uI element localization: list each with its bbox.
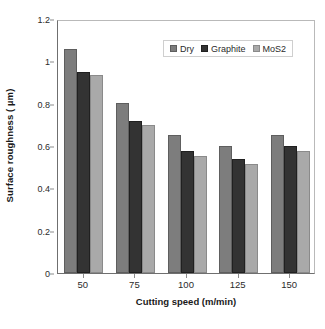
bar	[129, 121, 142, 273]
x-axis-title: Cutting speed (m/min)	[57, 296, 315, 307]
bar	[77, 72, 90, 273]
y-axis-tick-label: 0.4	[37, 184, 50, 194]
x-axis-tick-label: 75	[129, 279, 140, 290]
bar	[194, 156, 207, 273]
bar-group	[64, 21, 103, 273]
x-axis-tick-mark	[83, 274, 84, 278]
legend-entry: Dry	[170, 44, 194, 54]
bar	[181, 151, 194, 273]
legend-swatch-icon	[253, 45, 260, 52]
chart-legend: DryGraphiteMoS2	[163, 40, 293, 57]
bar	[271, 135, 284, 273]
y-axis-tick-mark	[50, 189, 54, 190]
plot-area	[57, 20, 315, 274]
y-axis-title: Surface roughness ( µm)	[0, 0, 20, 290]
x-axis-tick-label: 150	[281, 279, 297, 290]
bar-group	[168, 21, 207, 273]
y-axis-tick-labels: 00.20.40.60.811.2	[20, 20, 54, 274]
bar	[116, 103, 129, 273]
legend-entry: Graphite	[201, 44, 246, 54]
bars-layer	[58, 21, 314, 273]
legend-entry: MoS2	[253, 44, 287, 54]
legend-label: Graphite	[211, 44, 246, 54]
legend-swatch-icon	[201, 45, 208, 52]
y-axis-tick-label: 0.8	[37, 100, 50, 110]
legend-label: Dry	[180, 44, 194, 54]
bar	[245, 164, 258, 273]
x-axis-tick-label: 50	[78, 279, 89, 290]
y-axis-title-label: Surface roughness ( µm)	[5, 88, 16, 202]
caption-strip	[0, 314, 325, 329]
y-axis-tick-mark	[50, 20, 54, 21]
bar	[232, 159, 245, 273]
x-axis-tick-mark	[134, 274, 135, 278]
x-axis-tick-mark	[186, 274, 187, 278]
bar	[64, 49, 77, 273]
x-axis-tick-labels: 5075100125150	[57, 279, 315, 295]
legend-label: MoS2	[263, 44, 287, 54]
x-axis-tick-label: 125	[230, 279, 246, 290]
bar	[168, 135, 181, 273]
bar-group	[271, 21, 310, 273]
y-axis-tick-label: 0.2	[37, 227, 50, 237]
x-axis-tick-label: 100	[178, 279, 194, 290]
bar	[297, 151, 310, 273]
y-axis-tick-label: 1.2	[37, 15, 50, 25]
bar-group	[219, 21, 258, 273]
y-axis-tick-mark	[50, 104, 54, 105]
y-axis-tick-mark	[50, 274, 54, 275]
x-axis-tick-mark	[238, 274, 239, 278]
y-axis-tick-mark	[50, 62, 54, 63]
bar	[284, 146, 297, 273]
bar	[219, 146, 232, 273]
chart-figure: Surface roughness ( µm) 00.20.40.60.811.…	[0, 0, 325, 329]
y-axis-tick-mark	[50, 147, 54, 148]
x-axis-tick-mark	[289, 274, 290, 278]
bar	[90, 75, 103, 273]
y-axis-tick-label: 0.6	[37, 142, 50, 152]
y-axis-tick-mark	[50, 231, 54, 232]
bar	[142, 125, 155, 273]
legend-swatch-icon	[170, 45, 177, 52]
bar-group	[116, 21, 155, 273]
